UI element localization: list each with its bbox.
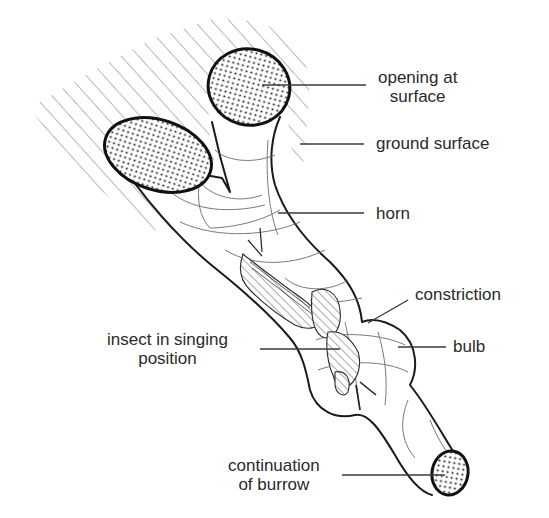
label-ground-text: ground surface — [376, 134, 489, 153]
label-opening-at-surface: opening at surface — [378, 68, 457, 106]
label-continuation-of-burrow: continuation of burrow — [228, 456, 320, 494]
burrow-diagram — [0, 0, 549, 518]
label-continuation-line2: of burrow — [228, 475, 320, 494]
label-insect-line2: position — [107, 349, 228, 368]
label-horn-text: horn — [376, 204, 410, 223]
label-opening-line2: surface — [378, 87, 457, 106]
label-insect-in-singing-position: insect in singing position — [107, 330, 228, 368]
label-insect-line1: insect in singing — [107, 330, 228, 349]
label-opening-line1: opening at — [378, 68, 457, 87]
label-constriction: constriction — [415, 285, 501, 304]
label-continuation-line1: continuation — [228, 456, 320, 475]
label-horn: horn — [376, 204, 410, 223]
label-bulb-text: bulb — [453, 337, 485, 356]
label-ground-surface: ground surface — [376, 134, 489, 153]
label-constriction-text: constriction — [415, 285, 501, 304]
label-bulb: bulb — [453, 337, 485, 356]
